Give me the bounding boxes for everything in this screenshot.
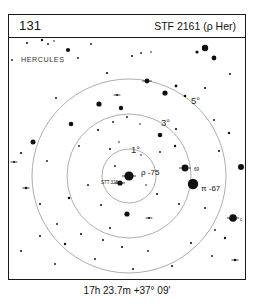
star-marker [159,151,161,153]
star-marker [140,154,142,156]
star-dot [80,233,82,235]
star-group [11,39,244,270]
star-marker [109,148,111,150]
star-dot [150,51,152,53]
star-marker [119,106,123,110]
star-marker [211,255,213,257]
star-dot [39,235,41,237]
star-marker [20,250,22,252]
star-dot [109,148,111,150]
star-marker [124,211,129,216]
star-dot [234,259,236,261]
star-dot [171,265,173,267]
star-marker [171,265,173,267]
star-dot [218,150,220,152]
star-dot [47,43,49,45]
star-dot [178,203,180,205]
star-marker [174,145,176,147]
star-dot [202,45,208,51]
star-chart-page: 131 STF 2161 (ρ Her) HERCULES 1°3°5° ρ -… [0,0,254,306]
star-marker [145,184,147,186]
star-dot [41,39,43,41]
star-dot [145,79,150,84]
star-dot [174,145,176,147]
chart-header: 131 STF 2161 (ρ Her) [9,15,245,38]
star-dot [96,101,101,106]
star-marker [158,133,163,138]
star-marker [228,132,230,134]
star-dot [100,204,102,206]
star-dot [139,123,141,125]
star-marker [238,164,244,170]
sky-field: HERCULES 1°3°5° ρ -75STT 32869π -67c [9,38,245,279]
ring-label-2: 5° [191,96,200,106]
star-dot [124,211,129,216]
star-dot [109,227,111,229]
star-dot [90,43,92,45]
star-marker [53,40,55,42]
star-marker [114,94,121,96]
star-dot [228,132,230,134]
star-marker [184,95,187,98]
star-dot [20,152,22,154]
star-marker [41,39,43,41]
star-dot [182,165,189,172]
star-marker [68,197,71,200]
star-marker [109,227,111,229]
star-marker [231,259,238,261]
star-dot [56,223,58,225]
star-marker [212,56,217,61]
star-dot [140,154,142,156]
star-dot [121,246,123,248]
star-marker [55,97,57,99]
star-marker [121,246,123,248]
star-marker [94,258,96,260]
star-dot [147,250,149,252]
star-dot [26,42,28,44]
star-marker [114,165,116,167]
star-marker [147,250,149,252]
star-dot [78,145,80,147]
rho-75-label: ρ -75 [141,169,159,177]
star-marker [77,57,79,59]
star-dot [97,129,99,131]
star-dot [224,237,226,239]
star-marker [132,268,134,270]
stt328-label: STT 328 [101,181,118,186]
star-dot [229,73,231,75]
star-marker [218,150,220,152]
star-marker [11,59,13,61]
star-marker [156,193,158,195]
star-dot [69,122,74,127]
star-dot [229,214,237,222]
star-dot [190,242,192,244]
star-dot [66,48,70,52]
star-marker [126,116,128,118]
star-dot [68,197,71,200]
chart-title: STF 2161 (ρ Her) [154,20,236,32]
star-marker [102,239,104,241]
coordinates-caption: 17h 23.7m +37° 09' [0,285,254,296]
star-marker [39,203,41,205]
star-dot [213,119,215,121]
ring-label-1: 3° [161,118,170,128]
star-dot [156,193,158,195]
star-dot [117,180,122,185]
star-dot [114,165,116,167]
star-dot [87,184,89,186]
star-dot [126,116,128,118]
chart-number: 131 [19,18,41,33]
star-dot [124,171,133,180]
star-marker [96,101,101,106]
star-marker [204,87,206,89]
star-marker [142,79,152,84]
constellation-label: HERCULES [21,56,65,63]
star-marker [204,207,206,209]
sky-plot [9,38,245,279]
star-dot [11,59,13,61]
star-marker [112,121,114,123]
star-dot [159,151,161,153]
ring-label-0: 1° [131,145,140,155]
star-dot [140,52,142,54]
star-dot [39,203,41,205]
